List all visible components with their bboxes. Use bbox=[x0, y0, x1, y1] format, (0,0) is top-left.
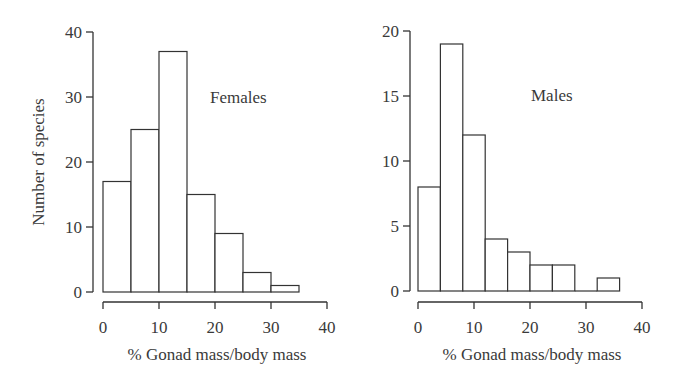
panel-label: Females bbox=[210, 88, 267, 107]
histogram-bar bbox=[271, 286, 299, 293]
histogram-bar bbox=[243, 273, 271, 293]
histogram-bar bbox=[508, 252, 530, 291]
y-tick-label: 0 bbox=[74, 283, 83, 302]
x-tick-label: 10 bbox=[466, 318, 483, 337]
x-tick-label: 10 bbox=[151, 318, 168, 337]
x-tick-label: 0 bbox=[414, 318, 423, 337]
x-tick-label: 0 bbox=[99, 318, 108, 337]
y-tick-label: 0 bbox=[391, 282, 400, 301]
histogram-bar bbox=[418, 187, 440, 291]
y-tick-label: 5 bbox=[391, 217, 400, 236]
histogram-bar bbox=[485, 239, 507, 291]
y-tick-label: 30 bbox=[65, 88, 82, 107]
x-axis-title: % Gonad mass/body mass bbox=[128, 345, 307, 364]
histogram-bar bbox=[552, 265, 574, 291]
histogram-bar bbox=[131, 130, 159, 293]
females-histogram: 010203040010203040Females% Gonad mass/bo… bbox=[29, 23, 336, 364]
x-tick-label: 30 bbox=[578, 318, 595, 337]
y-tick-label: 20 bbox=[382, 22, 399, 41]
histogram-bar bbox=[530, 265, 552, 291]
males-histogram: 05101520010203040Males% Gonad mass/body … bbox=[382, 22, 651, 364]
y-tick-label: 10 bbox=[382, 152, 399, 171]
x-tick-label: 30 bbox=[263, 318, 280, 337]
x-axis-title: % Gonad mass/body mass bbox=[443, 345, 622, 364]
histogram-bar bbox=[597, 278, 619, 291]
y-tick-label: 10 bbox=[65, 218, 82, 237]
x-tick-label: 40 bbox=[634, 318, 651, 337]
histogram-figure: 010203040010203040Females% Gonad mass/bo… bbox=[0, 0, 678, 391]
x-tick-label: 20 bbox=[207, 318, 224, 337]
x-tick-label: 40 bbox=[319, 318, 336, 337]
histogram-bar bbox=[103, 182, 131, 293]
y-tick-label: 40 bbox=[65, 23, 82, 42]
y-tick-label: 15 bbox=[382, 87, 399, 106]
histogram-bar bbox=[440, 44, 462, 291]
histogram-bar bbox=[215, 234, 243, 293]
y-tick-label: 20 bbox=[65, 153, 82, 172]
y-axis-title: Number of species bbox=[29, 98, 48, 225]
histogram-bar bbox=[187, 195, 215, 293]
histogram-bar bbox=[159, 52, 187, 293]
histogram-bar bbox=[463, 135, 485, 291]
panel-label: Males bbox=[531, 86, 573, 105]
x-tick-label: 20 bbox=[522, 318, 539, 337]
